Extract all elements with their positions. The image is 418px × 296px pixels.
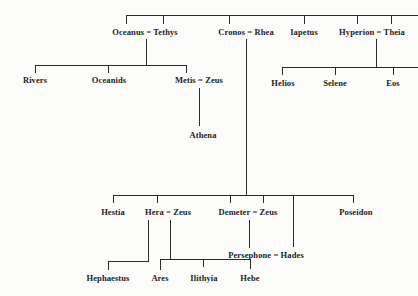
connector-oceanus — [126, 15, 127, 24]
node-selene: Selene — [323, 78, 347, 88]
connector-cronos — [229, 15, 230, 24]
descent-line-cronos — [246, 39, 247, 196]
node-rivers: Rivers — [23, 75, 47, 85]
connector-poseidon — [353, 195, 354, 203]
top-sibling-bar — [126, 15, 418, 16]
node-hestia: Hestia — [101, 207, 125, 217]
node-hebe: Hebe — [240, 273, 259, 283]
node-iapetus: Iapetus — [290, 27, 318, 37]
node-poseidon: Poseidon — [339, 207, 372, 217]
node-demeter-zeus: Demeter = Zeus — [219, 207, 278, 217]
sibling-bar-hyperion-children — [282, 67, 418, 68]
node-cronos-rhea: Cronos = Rhea — [218, 27, 274, 37]
node-eos: Eos — [386, 78, 400, 88]
node-metis-zeus: Metis = Zeus — [175, 75, 223, 85]
descent-line-hyperion — [376, 39, 377, 67]
connector-eos — [393, 67, 394, 75]
connector-hestia — [113, 195, 114, 203]
connector-hebe — [250, 259, 251, 269]
connector-zeus — [263, 195, 264, 203]
bar-hera-to-hephaestus — [108, 261, 149, 262]
connector-tethys — [163, 15, 164, 24]
connector-theia — [391, 15, 392, 24]
node-oceanus-tethys: Oceanus = Tethys — [112, 27, 178, 37]
sibling-bar-hera-zeus-children — [160, 259, 251, 260]
connector-metis — [186, 65, 187, 73]
node-hera-zeus: Hera = Zeus — [145, 207, 191, 217]
node-hephaestus: Hephaestus — [86, 273, 129, 283]
connector-demeter — [230, 195, 231, 203]
connector-hephaestus — [108, 261, 109, 270]
connector-iapetus — [304, 15, 305, 24]
connector-hera — [157, 195, 158, 203]
descent-line-oceanus — [146, 39, 147, 66]
connector-oceanids — [108, 65, 109, 73]
sibling-bar-oceanus-children — [35, 65, 187, 66]
connector-rivers — [35, 65, 36, 73]
node-oceanids: Oceanids — [92, 75, 126, 85]
family-tree-diagram: Oceanus = Tethys Cronos = Rhea Iapetus H… — [0, 0, 418, 296]
connector-helios — [282, 67, 283, 75]
connector-ilithyia — [203, 259, 204, 267]
connector-hyperion — [357, 15, 358, 24]
connector-hades — [293, 195, 294, 247]
node-ares: Ares — [151, 273, 168, 283]
connector-ares — [160, 259, 161, 270]
node-hyperion-theia: Hyperion = Theia — [339, 27, 405, 37]
descent-line-hera — [148, 220, 149, 262]
sibling-bar-cronos-children — [113, 195, 354, 196]
descent-line-metis-zeus — [199, 88, 200, 126]
node-helios: Helios — [271, 78, 294, 88]
descent-line-hera-zeus — [170, 220, 171, 260]
descent-line-demeter-zeus — [249, 220, 250, 248]
node-ilithyia: Ilithyia — [190, 273, 217, 283]
connector-selene — [335, 67, 336, 75]
node-athena: Athena — [189, 130, 216, 140]
